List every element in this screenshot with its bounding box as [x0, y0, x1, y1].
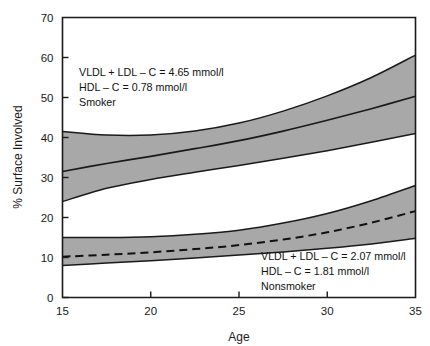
x-tick-label: 25 [233, 305, 246, 317]
nonsmoker-annotation-line-1: VLDL + LDL – C = 2.07 mmol/l [261, 250, 406, 262]
y-tick-label: 20 [41, 212, 54, 224]
y-tick-label: 60 [41, 52, 54, 64]
y-axis-title: % Surface Involved [11, 105, 25, 208]
y-tick-label: 10 [41, 252, 54, 264]
x-tick-label: 15 [56, 305, 69, 317]
smoker-annotation-line-3: Smoker [79, 96, 116, 108]
smoker-annotation-line-1: VLDL + LDL – C = 4.65 mmol/l [79, 66, 224, 78]
x-tick-label: 20 [144, 305, 157, 317]
chart-canvas: 010203040506070 1520253035 % Surface Inv… [0, 0, 430, 346]
y-tick-label: 40 [41, 132, 54, 144]
x-tick-label: 35 [409, 305, 422, 317]
x-axis-title: Age [228, 330, 250, 344]
chart-figure: 010203040506070 1520253035 % Surface Inv… [0, 0, 430, 346]
smoker-annotation-line-2: HDL – C = 0.78 mmol/l [79, 81, 187, 93]
y-tick-label: 50 [41, 92, 54, 104]
y-tick-label: 30 [41, 172, 54, 184]
y-tick-label: 0 [47, 292, 53, 304]
nonsmoker-annotation-line-2: HDL – C = 1.81 mmol/l [261, 265, 369, 277]
y-tick-label: 70 [41, 12, 54, 24]
nonsmoker-annotation-line-3: Nonsmoker [261, 280, 316, 292]
x-tick-label: 30 [321, 305, 334, 317]
